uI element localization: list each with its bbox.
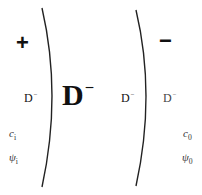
center-field-large-sup: − — [85, 78, 94, 97]
center-field-small: D− — [121, 92, 134, 104]
variable-subscript: 0 — [189, 157, 193, 166]
variable-subscript: i — [14, 133, 16, 142]
variable-psi-0: ψ0 — [182, 152, 193, 166]
variable-symbol: ψ — [182, 151, 189, 163]
variable-symbol: ψ — [9, 151, 16, 163]
left-field-base: D — [24, 91, 33, 105]
left-field-label: D− — [24, 92, 37, 104]
positive-sign: + — [16, 32, 29, 54]
right-field-sup: − — [173, 91, 177, 98]
negative-sign: − — [159, 30, 172, 52]
center-field-large: D− — [62, 80, 94, 110]
left-field-sup: − — [34, 91, 38, 98]
right-field-base: D — [163, 91, 172, 105]
variable-subscript: 0 — [188, 133, 192, 142]
center-field-small-sup: − — [131, 91, 135, 98]
left-interface-curve — [42, 8, 52, 187]
variable-c-0: c0 — [183, 128, 192, 142]
variable-c-i: ci — [9, 128, 16, 142]
right-field-label: D− — [163, 92, 176, 104]
center-field-large-base: D — [62, 78, 84, 111]
variable-subscript: i — [16, 157, 18, 166]
variable-psi-i: ψi — [9, 152, 18, 166]
center-field-small-base: D — [121, 91, 130, 105]
right-interface-curve — [136, 10, 146, 186]
